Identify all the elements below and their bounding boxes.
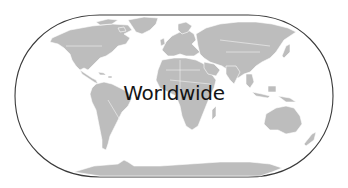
- region-uk: [160, 38, 165, 46]
- region-australia: [264, 106, 302, 134]
- region-caribbean: [98, 72, 112, 78]
- region-europe: [162, 30, 200, 56]
- map-label: Worldwide: [0, 81, 348, 105]
- region-greenland: [128, 17, 158, 34]
- region-antarctica: [74, 160, 282, 176]
- region-japan: [282, 44, 290, 58]
- region-new-zealand: [304, 132, 316, 146]
- world-map: Worldwide: [0, 0, 348, 188]
- region-madagascar: [212, 106, 216, 120]
